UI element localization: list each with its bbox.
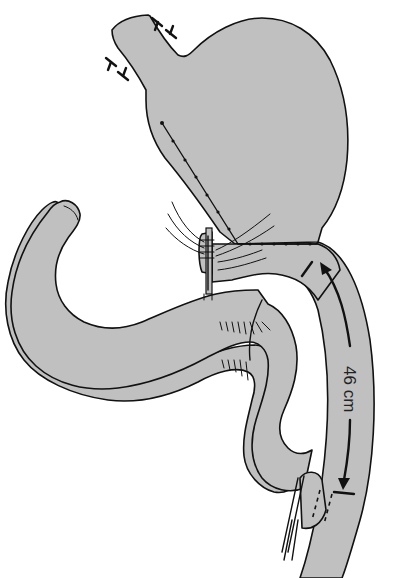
linear-stapler-upper bbox=[199, 228, 214, 300]
surgical-diagram: 46 cm bbox=[0, 0, 395, 578]
diagram-stage: 46 cm bbox=[0, 0, 395, 578]
measurement-label: 46 cm bbox=[340, 366, 359, 412]
stomach bbox=[112, 15, 348, 244]
